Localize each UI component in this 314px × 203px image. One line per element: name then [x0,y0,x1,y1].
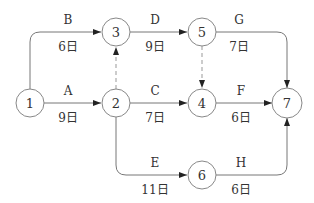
activity-e-duration: 11日 [141,183,168,197]
activity-c-duration: 7日 [145,111,165,125]
node-7-label: 7 [283,96,291,111]
activity-h-duration: 6日 [231,183,251,197]
activity-f-duration: 6日 [231,111,251,125]
activity-g-duration: 7日 [229,40,249,54]
node-5: 5 [188,18,216,46]
node-4: 4 [188,89,216,117]
activity-e-name: E [151,156,160,170]
activity-d-name: D [150,13,160,27]
activity-g-arrow [216,32,287,88]
node-2: 2 [102,89,130,117]
activity-d-duration: 9日 [145,40,165,54]
node-5-label: 5 [198,25,206,40]
activity-f-name: F [237,84,245,98]
activity-a-duration: 9日 [58,111,78,125]
activity-h-arrow [216,118,287,175]
activity-c-name: C [150,84,159,98]
activity-b-duration: 6日 [58,40,78,54]
node-1-label: 1 [26,96,34,111]
node-6: 6 [188,161,216,189]
node-4-label: 4 [198,96,206,111]
activity-b-name: B [64,13,73,27]
activity-g-name: G [234,13,244,27]
node-3: 3 [102,18,130,46]
node-3-label: 3 [112,25,120,40]
node-7: 7 [272,88,302,118]
node-1: 1 [16,89,44,117]
activity-h-name: H [236,156,246,170]
network-diagram: B 6日 A 9日 D 9日 G 7日 C 7日 F 6日 E 11日 H 6日… [0,0,314,203]
node-2-label: 2 [112,96,120,111]
activity-a-name: A [63,84,73,98]
node-6-label: 6 [198,168,206,183]
